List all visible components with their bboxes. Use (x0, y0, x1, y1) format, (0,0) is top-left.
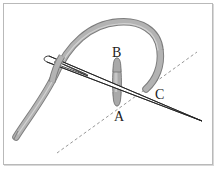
thread (14, 22, 160, 139)
label-c: C (155, 87, 164, 102)
dashed-stitch-line (57, 52, 197, 153)
label-a: A (114, 109, 125, 124)
label-b: B (112, 45, 121, 60)
stitch-diagram: B A C (0, 0, 217, 171)
